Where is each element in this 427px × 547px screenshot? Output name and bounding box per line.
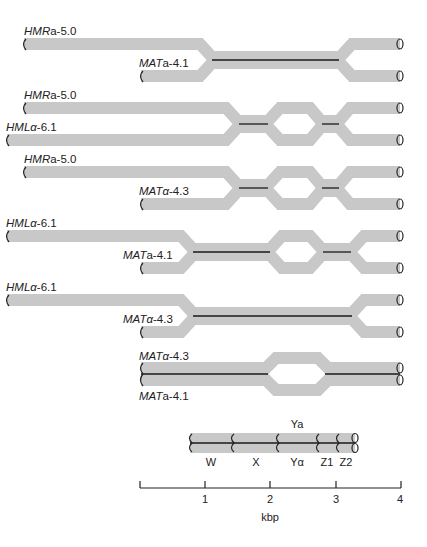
heteroduplex-diagram: HMRa-5.0 MATa-4.1 HMRa-5.0 HMLα-6.1 HMRa… <box>0 0 427 547</box>
panel-3: HMRa-5.0 MATα-4.3 <box>24 153 404 210</box>
region-label-yalpha: Yα <box>290 456 304 468</box>
axis-unit-label: kbp <box>261 511 279 523</box>
strand-label-top: HMLα-6.1 <box>6 281 57 293</box>
strand-label-top: HMRa-5.0 <box>24 25 76 37</box>
tick-label-3: 3 <box>333 493 339 505</box>
strand-label-bottom: MATα-4.3 <box>123 313 173 325</box>
panel-6: MATα-4.3 MATa-4.1 <box>139 350 403 402</box>
region-label-w: W <box>206 456 217 468</box>
region-label-z2: Z2 <box>340 456 353 468</box>
panel-4: HMLα-6.1 MATa-4.1 <box>6 217 403 274</box>
panel-5: HMLα-6.1 MATα-4.3 <box>6 281 403 338</box>
panel-1: HMRa-5.0 MATa-4.1 <box>24 25 404 82</box>
region-label-x: X <box>252 456 260 468</box>
strand-label-top: HMRa-5.0 <box>24 153 76 165</box>
strand-label-top: MATα-4.3 <box>139 350 189 362</box>
region-legend: Ya W X Yα Z1 Z2 <box>190 418 359 468</box>
scale-axis: 1 2 3 4 kbp <box>140 481 403 523</box>
tick-label-1: 1 <box>202 493 208 505</box>
strand-label-top: HMRa-5.0 <box>24 89 76 101</box>
tick-label-4: 4 <box>397 493 403 505</box>
strand-label-bottom: MATa-4.1 <box>139 57 189 69</box>
strand-label-bottom: MATa-4.1 <box>123 249 173 261</box>
strand-label-bottom: MATa-4.1 <box>139 390 189 402</box>
region-label-ya: Ya <box>291 418 305 430</box>
strand-label-bottom: MATα-4.3 <box>139 185 189 197</box>
region-label-z1: Z1 <box>321 456 334 468</box>
panel-2: HMRa-5.0 HMLα-6.1 <box>6 89 403 146</box>
strand-label-bottom: HMLα-6.1 <box>6 121 57 133</box>
tick-label-2: 2 <box>267 493 273 505</box>
strand-label-top: HMLα-6.1 <box>6 217 57 229</box>
